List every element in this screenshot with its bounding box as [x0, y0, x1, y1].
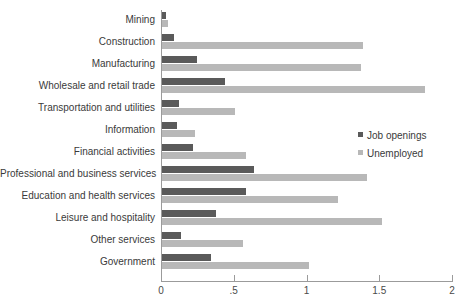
- chart-row: Education and health services: [0, 188, 461, 210]
- legend-item-job-openings[interactable]: Job openings: [358, 130, 458, 141]
- chart-row: Construction: [0, 34, 461, 56]
- bar-job-openings: [162, 100, 179, 107]
- bar-unemployed: [162, 262, 309, 269]
- bar-job-openings: [162, 232, 181, 239]
- x-axis-line: [161, 281, 453, 282]
- category-label: Education and health services: [0, 190, 155, 201]
- chart-row: Other services: [0, 232, 461, 254]
- bar-job-openings: [162, 12, 166, 19]
- legend-label-unemployed: Unemployed: [367, 148, 423, 159]
- bar-job-openings: [162, 144, 193, 151]
- bar-unemployed: [162, 240, 243, 247]
- chart-row: Manufacturing: [0, 56, 461, 78]
- x-tick-label: 0: [158, 285, 164, 296]
- bar-unemployed: [162, 130, 195, 137]
- category-label: Wholesale and retail trade: [0, 80, 155, 91]
- legend-swatch-icon-unemployed: [358, 150, 363, 155]
- bar-chart: 0.511.52 MiningConstructionManufacturing…: [0, 0, 461, 306]
- category-label: Transportation and utilities: [0, 102, 155, 113]
- bar-unemployed: [162, 64, 361, 71]
- chart-row: Professional and business services: [0, 166, 461, 188]
- category-label: Manufacturing: [0, 58, 155, 69]
- bar-job-openings: [162, 210, 216, 217]
- bar-unemployed: [162, 20, 168, 27]
- chart-row: Government: [0, 254, 461, 276]
- bar-job-openings: [162, 34, 174, 41]
- bar-unemployed: [162, 42, 363, 49]
- bar-unemployed: [162, 86, 425, 93]
- bar-job-openings: [162, 166, 254, 173]
- legend-item-unemployed[interactable]: Unemployed: [358, 148, 458, 159]
- bar-job-openings: [162, 56, 197, 63]
- chart-row: Leisure and hospitality: [0, 210, 461, 232]
- legend-swatch-icon-job-openings: [358, 132, 363, 137]
- category-label: Financial activities: [0, 146, 155, 157]
- category-label: Mining: [0, 14, 155, 25]
- bar-unemployed: [162, 218, 382, 225]
- x-tick-label: .5: [230, 285, 238, 296]
- chart-legend: Job openings Unemployed: [358, 130, 458, 166]
- bar-job-openings: [162, 78, 225, 85]
- category-label: Professional and business services: [0, 168, 155, 179]
- legend-label-job-openings: Job openings: [367, 130, 427, 141]
- x-tick-label: 2: [449, 285, 455, 296]
- category-label: Government: [0, 256, 155, 267]
- x-tick-label: 1: [304, 285, 310, 296]
- bar-job-openings: [162, 254, 211, 261]
- bar-unemployed: [162, 152, 246, 159]
- chart-row: Wholesale and retail trade: [0, 78, 461, 100]
- bar-unemployed: [162, 174, 367, 181]
- bar-job-openings: [162, 188, 246, 195]
- chart-row: Transportation and utilities: [0, 100, 461, 122]
- category-label: Leisure and hospitality: [0, 212, 155, 223]
- bar-unemployed: [162, 196, 338, 203]
- chart-row: Mining: [0, 12, 461, 34]
- bar-job-openings: [162, 122, 177, 129]
- x-tick-label: 1.5: [372, 285, 386, 296]
- category-label: Construction: [0, 36, 155, 47]
- bar-unemployed: [162, 108, 235, 115]
- category-label: Information: [0, 124, 155, 135]
- category-label: Other services: [0, 234, 155, 245]
